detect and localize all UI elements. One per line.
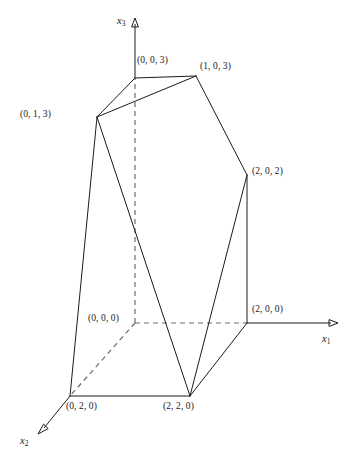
vertex-label-0-0-3: (0, 0, 3)	[137, 56, 168, 66]
vertex-label-0-0-0: (0, 0, 0)	[88, 314, 119, 324]
edge-103-to-202	[196, 76, 247, 175]
edge-202-to-220	[190, 175, 247, 396]
solid-edges-group	[70, 76, 247, 396]
edge-103-to-013	[97, 76, 196, 117]
axis-label-x1-subscript: 1	[327, 337, 331, 346]
x2-axis-arrowhead	[38, 424, 48, 434]
figure-root: (0, 0, 3) (1, 0, 3) (0, 1, 3) (2, 0, 2) …	[0, 0, 363, 463]
edge-003-to-013	[97, 78, 135, 117]
edge-003-to-103	[135, 76, 196, 78]
axis-label-x3: x3	[117, 16, 126, 27]
axis-label-x3-subscript: 3	[122, 19, 126, 28]
hidden-edge-origin-to-020	[70, 323, 135, 396]
edge-013-to-220	[97, 117, 190, 396]
polyhedron-diagram	[0, 0, 363, 463]
edge-013-to-020	[70, 117, 97, 396]
vertex-label-2-2-0: (2, 2, 0)	[163, 402, 194, 412]
vertex-label-0-1-3: (0, 1, 3)	[20, 110, 51, 120]
vertex-label-0-2-0: (0, 2, 0)	[66, 402, 97, 412]
axis-label-x1: x1	[322, 334, 331, 345]
edge-220-to-200	[190, 323, 247, 396]
vertex-label-1-0-3: (1, 0, 3)	[200, 62, 231, 72]
axis-label-x2: x2	[20, 436, 29, 447]
axis-label-x2-subscript: 2	[25, 439, 29, 448]
axis-group	[38, 18, 338, 434]
vertex-label-2-0-0: (2, 0, 0)	[252, 305, 283, 315]
vertex-label-2-0-2: (2, 0, 2)	[252, 167, 283, 177]
